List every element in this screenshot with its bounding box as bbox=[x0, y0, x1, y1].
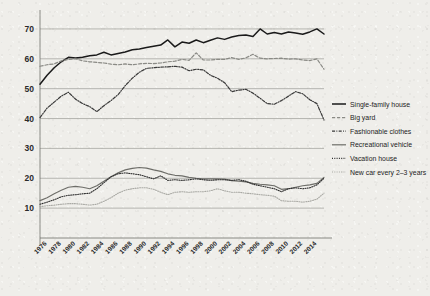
y-axis-tick-label: 60 bbox=[25, 54, 35, 64]
x-axis-tick-label: 1998 bbox=[189, 240, 205, 256]
y-axis-tick-label: 70 bbox=[25, 24, 35, 34]
series-line-0 bbox=[40, 29, 324, 84]
y-axis-tick-label: 40 bbox=[25, 114, 35, 124]
x-axis-tick-label: 2004 bbox=[231, 240, 247, 256]
y-axis-tick-label: 10 bbox=[25, 203, 35, 213]
x-axis-tick-label: 2008 bbox=[260, 240, 276, 256]
legend-label-2: Fashionable clothes bbox=[350, 128, 412, 135]
chart-canvas: 1020304050607019761978198019821984198619… bbox=[0, 0, 430, 296]
legend-label-0: Single-family house bbox=[350, 101, 410, 109]
line-chart: 1020304050607019761978198019821984198619… bbox=[0, 0, 430, 296]
x-axis-tick-label: 1980 bbox=[61, 240, 77, 256]
series-line-2 bbox=[40, 66, 324, 120]
x-axis-tick-label: 1988 bbox=[118, 240, 134, 256]
y-axis-tick-label: 30 bbox=[25, 143, 35, 153]
x-axis-tick-label: 1990 bbox=[132, 240, 148, 256]
x-axis-tick-label: 2010 bbox=[274, 240, 290, 256]
x-axis-tick-label: 1982 bbox=[75, 240, 91, 256]
x-axis-tick-label: 1976 bbox=[32, 240, 48, 256]
legend-label-1: Big yard bbox=[350, 114, 375, 122]
x-axis-tick-label: 1984 bbox=[89, 240, 105, 256]
legend-label-3: Recreational vehicle bbox=[350, 141, 412, 148]
legend-label-4: Vacation house bbox=[350, 155, 397, 162]
x-axis-tick-label: 1986 bbox=[103, 240, 119, 256]
series-line-5 bbox=[40, 188, 324, 207]
y-axis-tick-label: 20 bbox=[25, 173, 35, 183]
x-axis-tick-label: 2012 bbox=[288, 240, 304, 256]
x-axis-tick-label: 1996 bbox=[174, 240, 190, 256]
series-line-3 bbox=[40, 168, 324, 201]
y-axis-tick-label: 50 bbox=[25, 84, 35, 94]
legend-label-5: New car every 2–3 years bbox=[350, 169, 427, 177]
x-axis-tick-label: 1992 bbox=[146, 240, 162, 256]
x-axis-tick-label: 2000 bbox=[203, 240, 219, 256]
x-axis-tick-label: 2002 bbox=[217, 240, 233, 256]
x-axis-tick-label: 2006 bbox=[245, 240, 261, 256]
x-axis-tick-label: 1978 bbox=[47, 240, 63, 256]
x-axis-tick-label: 1994 bbox=[160, 240, 176, 256]
series-line-4 bbox=[40, 173, 324, 204]
x-axis-tick-label: 2014 bbox=[302, 240, 318, 256]
